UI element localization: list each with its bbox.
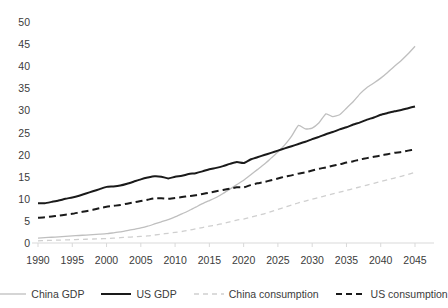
legend-label: US consumption [371, 288, 448, 300]
legend-item-us-consumption[interactable]: US consumption [336, 288, 448, 300]
series-line-us-consumption [38, 149, 415, 218]
x-tick-label-2015: 2015 [198, 255, 221, 266]
x-tick-label-2035: 2035 [335, 255, 358, 266]
legend-swatch-icon [194, 289, 224, 299]
x-tick-label-2000: 2000 [95, 255, 118, 266]
y-tick-label-0: 0 [4, 238, 30, 249]
y-tick-label-30: 30 [4, 105, 30, 116]
series-layer [38, 46, 415, 240]
x-tick-label-2045: 2045 [403, 255, 426, 266]
y-tick-label-45: 45 [4, 39, 30, 50]
y-tick-label-35: 35 [4, 83, 30, 94]
y-tick-label-40: 40 [4, 61, 30, 72]
x-tick-label-2010: 2010 [163, 255, 186, 266]
y-tick-label-25: 25 [4, 127, 30, 138]
series-line-china-consumption [38, 172, 415, 241]
y-tick-label-10: 10 [4, 194, 30, 205]
legend-label: US GDP [136, 288, 176, 300]
x-tick-label-2005: 2005 [129, 255, 152, 266]
legend-label: China GDP [31, 288, 84, 300]
legend-swatch-icon [0, 289, 26, 299]
legend-swatch-icon [101, 289, 131, 299]
y-tick-label-50: 50 [4, 17, 30, 28]
x-tick-label-2030: 2030 [301, 255, 324, 266]
x-tick-label-2025: 2025 [266, 255, 289, 266]
x-tick-label-2040: 2040 [369, 255, 392, 266]
x-tick-label-1990: 1990 [26, 255, 49, 266]
y-tick-label-5: 5 [4, 216, 30, 227]
legend-swatch-icon [336, 289, 366, 299]
x-tick-label-2020: 2020 [232, 255, 255, 266]
y-tick-label-20: 20 [4, 149, 30, 160]
legend-item-china-consumption[interactable]: China consumption [194, 288, 319, 300]
legend-item-china-gdp[interactable]: China GDP [0, 288, 84, 300]
legend-label: China consumption [229, 288, 319, 300]
y-tick-label-15: 15 [4, 171, 30, 182]
x-tick-label-1995: 1995 [61, 255, 84, 266]
legend-item-us-gdp[interactable]: US GDP [101, 288, 176, 300]
chart-legend: China GDPUS GDPChina consumptionUS consu… [0, 283, 444, 305]
axis-layer [32, 243, 434, 247]
